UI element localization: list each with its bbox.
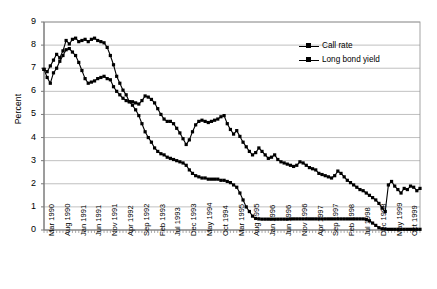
y-axis-tick-label: 4 [22,132,36,142]
legend-item-call-rate[interactable]: Call rate [299,40,380,52]
legend-label: Call rate [322,41,353,51]
chart-container: Percent Call rate Long bond yield 012345… [0,0,437,289]
legend-marker-icon [299,55,319,65]
y-axis-tick-label: 3 [22,155,36,165]
x-axis-tick-label: Jul 1998 [363,207,372,236]
y-axis-tick-label: 6 [22,85,36,95]
x-axis-tick-label: May 1994 [205,203,214,236]
legend-item-long-bond-yield[interactable]: Long bond yield [299,54,380,66]
x-axis-tick-label: Jul 1993 [173,207,182,236]
x-axis-tick-label: Aug 1990 [63,203,72,236]
y-axis-tick-label: 8 [22,39,36,49]
x-axis-tick-label: Oct 1994 [221,205,230,236]
y-axis-tick-label: 0 [22,224,36,234]
y-axis-tick-label: 9 [22,16,36,26]
x-axis-tick-label: Dec 1998 [379,203,388,236]
x-axis-tick-label: Nov 1996 [300,203,309,236]
x-axis-tick-label: Sep 1997 [331,203,340,236]
x-axis-tick-label: Apr 1997 [316,205,325,236]
x-axis-tick-label: Jan 1996 [268,205,277,236]
x-axis-tick-label: Oct 1999 [410,205,419,236]
y-axis-tick-label: 1 [22,201,36,211]
x-axis-tick-label: Sep 1992 [142,203,151,236]
x-axis-tick-label: Mar 1990 [47,204,56,236]
legend-label: Long bond yield [322,55,380,65]
x-axis-tick-label: Feb 1993 [158,204,167,236]
x-axis-tick-label: Feb 1998 [347,204,356,236]
x-axis-tick-label: Jan 1991 [79,205,88,236]
y-axis-tick-label: 5 [22,108,36,118]
x-axis-tick-label: Dec 1993 [189,203,198,236]
legend-marker-icon [299,41,319,51]
y-axis-tick-label: 7 [22,62,36,72]
x-axis-tick-label: Jun 1996 [284,205,293,236]
x-axis-tick-label: Mar 1995 [237,204,246,236]
y-axis-tick-label: 2 [22,178,36,188]
x-axis-tick-label: Apr 1992 [126,205,135,236]
x-axis-tick-label: Nov 1991 [110,203,119,236]
x-axis-tick-label: Jun 1991 [94,205,103,236]
x-axis-tick-label: Aug 1995 [252,203,261,236]
x-axis-tick-label: May 1999 [395,203,404,236]
chart-legend: Call rate Long bond yield [299,40,380,68]
